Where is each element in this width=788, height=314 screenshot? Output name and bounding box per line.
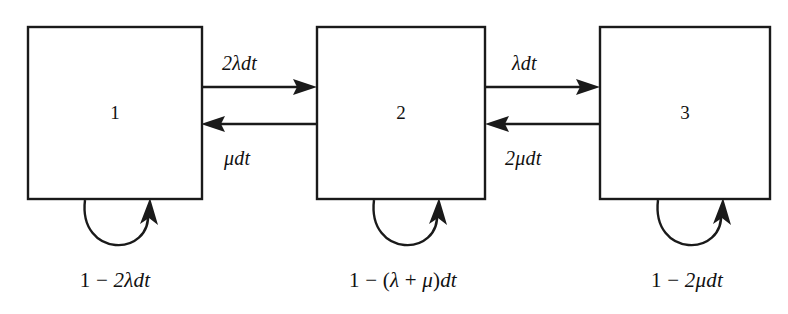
state-label-1: 1 [110,102,120,123]
self-loop-label-3: 1 − 2μdt [612,270,762,291]
self-loop-label-3-prefix: 1 − [651,268,685,292]
self-loop-label-1-prefix: 1 − [80,268,114,292]
transition-label-3-to-2: 2μdt [505,148,541,168]
self-loop-label-2-mu: μ [422,268,433,292]
self-loop-label-2-lambda: λ [390,268,399,292]
diagram-canvas: 1 2 3 2λdt μdt λdt 2μdt 1 − 2λdt 1 − (λ [0,0,788,314]
self-loop-label-2-dt: dt [440,268,457,292]
transition-label-2-to-3: λdt [512,53,537,73]
self-loop-arc-2 [374,200,438,245]
self-loop-label-2-plus: + [399,268,422,292]
self-loop-arc-1 [85,200,149,245]
transition-label-2-to-1: μdt [224,148,250,168]
transition-label-1-to-2: 2λdt [222,53,257,73]
self-loop-label-1: 1 − 2λdt [40,270,190,291]
state-label-3: 3 [680,102,690,123]
self-loop-label-3-term: 2μdt [685,268,723,292]
self-loop-label-2: 1 − (λ + μ)dt [308,270,498,291]
self-loop-label-1-term: 2λdt [113,268,150,292]
state-transition-diagram: 1 2 3 [0,0,788,314]
self-loop-arc-3 [658,200,722,245]
self-loop-label-2-prefix: 1 − ( [349,268,390,292]
state-label-2: 2 [396,102,406,123]
